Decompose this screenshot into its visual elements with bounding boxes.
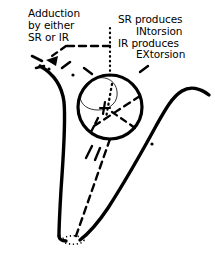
torsion-label: SR produces INtorsion IR produces EXtors… (118, 14, 185, 61)
torsion-label-line-2: INtorsion (118, 26, 185, 38)
adduction-label: Adduction by either SR or IR (28, 8, 80, 43)
adduction-dot-b (71, 73, 74, 76)
globe-axis-oblique (94, 96, 140, 126)
adduction-arrowhead (46, 56, 58, 66)
orbit-wall-left (40, 66, 65, 236)
muscle-axis-dashed-line (76, 139, 110, 236)
orbit-wall-right (80, 88, 209, 240)
globe-bottom-tick-b (95, 148, 100, 160)
adduction-label-line-2: by either (28, 20, 80, 32)
adduction-label-line-3: SR or IR (28, 32, 80, 44)
adduction-tick-a (32, 56, 42, 61)
torsion-label-line-4: EXtorsion (118, 49, 185, 61)
cornea-limbus-arc (80, 78, 117, 110)
globe-axis-vertical (106, 84, 112, 118)
adduction-dashed-diagonal (52, 46, 66, 56)
adduction-tick-c (62, 62, 70, 68)
orbit-apex-left-hook (59, 236, 66, 241)
globe-side-dot (150, 142, 153, 145)
globe-top-tick-right (140, 66, 148, 72)
globe-axis-lower-left (90, 118, 98, 134)
figure-canvas: Adduction by either SR or IR SR produces… (0, 0, 215, 255)
globe-axis-lower-right (112, 112, 138, 130)
globe-top-tick-left (84, 68, 92, 74)
globe-bottom-tick-a (86, 146, 92, 158)
globe-center-cross-v (103, 102, 105, 114)
adduction-dot-a (47, 67, 50, 70)
